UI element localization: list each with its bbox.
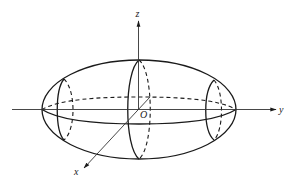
right-section-back-dashed xyxy=(214,80,222,140)
right-section-front xyxy=(206,80,214,140)
origin-label: O xyxy=(140,109,147,120)
ellipsoid-diagram: z y x O xyxy=(0,0,293,182)
z-axis-label: z xyxy=(135,8,140,19)
diagram-canvas: z y x O xyxy=(0,0,293,182)
x-axis-label: x xyxy=(73,166,79,177)
y-axis-label: y xyxy=(278,104,284,115)
